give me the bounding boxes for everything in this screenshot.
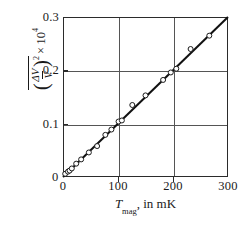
data-point xyxy=(207,33,212,38)
data-point xyxy=(143,93,148,98)
power-exponent-4: 4 xyxy=(32,28,40,32)
chart-figure: 0.3 0.2 0.1 0 0 100 200 300 (ΔVV)2 × 104… xyxy=(0,0,249,229)
x-axis-title: Tmag, in mK xyxy=(63,196,228,214)
data-point xyxy=(86,150,91,155)
exponent-2: 2 xyxy=(33,56,41,60)
ytick-label-0.1: 0.1 xyxy=(43,118,59,131)
power-base: 10 xyxy=(35,32,48,45)
x-axis-subscript: mag xyxy=(122,206,137,216)
data-point xyxy=(161,77,166,82)
xtick-labels: 0 100 200 300 xyxy=(0,178,249,198)
data-point xyxy=(69,166,74,171)
xtick-label-200: 200 xyxy=(159,180,187,193)
data-point xyxy=(95,144,100,149)
y-axis-title-overlined-term: (ΔVV)2 xyxy=(28,56,54,90)
ytick-mark-0.2 xyxy=(63,70,68,71)
fraction-numerator: ΔV xyxy=(30,67,42,82)
data-point xyxy=(79,157,84,162)
ytick-mark-0.1 xyxy=(63,124,68,125)
data-point xyxy=(168,70,173,75)
data-point xyxy=(174,66,179,71)
xtick-label-100: 100 xyxy=(104,180,132,193)
data-point xyxy=(103,132,108,137)
x-axis-units: , in mK xyxy=(137,196,176,211)
data-point xyxy=(74,161,79,166)
data-layer xyxy=(63,17,228,177)
xtick-label-300: 300 xyxy=(214,180,242,193)
y-axis-title: (ΔVV)2 × 104 xyxy=(30,4,52,114)
data-point xyxy=(109,127,114,132)
times-symbol: × xyxy=(35,47,48,54)
left-paren: ( xyxy=(33,83,50,90)
right-paren: ) xyxy=(33,60,50,67)
xtick-label-0: 0 xyxy=(56,180,70,193)
fraction-denominator: V xyxy=(42,71,55,80)
data-point xyxy=(119,118,124,123)
data-point xyxy=(188,47,193,52)
ytick-mark-0.3 xyxy=(63,17,68,18)
data-point xyxy=(130,103,135,108)
delta-v-over-v-fraction: ΔVV xyxy=(30,67,54,82)
